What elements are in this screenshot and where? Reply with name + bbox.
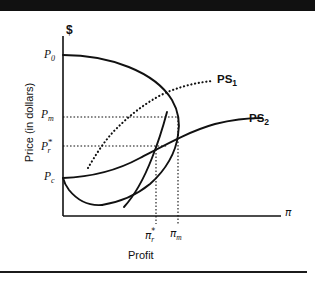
price-tick-pc: Pc [44,171,55,185]
profit-tick-pim: πm [170,228,182,242]
x-axis-symbol: π [285,207,291,218]
price-tick-p0-sub: 0 [51,54,55,63]
figure-container: $ P0 Pm P*r Pc π*r πm π PS1 PS2 Price (i… [0,0,315,281]
price-tick-p0-base: P [44,48,51,60]
profit-tick-pir-star: π*r [145,228,154,243]
price-tick-pm-base: P [41,108,48,120]
price-tick-pr-sub: r [48,146,51,155]
y-axis-title: Price (in dollars) [24,68,35,178]
price-tick-pc-base: P [44,170,51,182]
steep-supply-branch [124,112,167,207]
x-axis-title: Profit [128,250,154,261]
curve-label-ps2-sub: 2 [264,117,269,127]
price-tick-pm: Pm [41,109,54,123]
price-tick-pc-sub: c [51,176,55,185]
curve-label-ps2: PS2 [249,113,269,127]
y-axis-unit-symbol: $ [66,24,73,36]
curve-ps1 [88,81,213,168]
price-tick-pm-sub: m [48,114,54,123]
curve-label-ps2-base: PS [249,112,264,124]
profit-tick-pir-sub: r [151,235,154,244]
curve-label-ps1: PS1 [217,74,237,88]
profit-tick-pim-sub: m [176,233,181,242]
profit-frontier-tail [63,178,102,205]
price-tick-pr-base: P [41,140,48,152]
price-tick-p0: P0 [44,49,55,63]
price-tick-pr-star: P*r [41,138,51,155]
bottom-divider-rule [0,271,307,273]
curve-label-ps1-sub: 1 [232,78,237,88]
curve-label-ps1-base: PS [217,73,232,85]
profit-frontier-upper-branch [63,55,179,135]
